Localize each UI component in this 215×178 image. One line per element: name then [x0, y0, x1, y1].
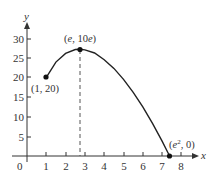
svg-text:7: 7: [159, 160, 165, 172]
svg-text:25: 25: [13, 52, 25, 64]
svg-text:8: 8: [178, 160, 184, 172]
x-axis-arrow-icon: [192, 153, 199, 159]
svg-text:6: 6: [140, 160, 146, 172]
svg-text:15: 15: [13, 91, 25, 103]
point-start: [43, 74, 48, 79]
svg-text:20: 20: [13, 71, 25, 83]
svg-text:3: 3: [82, 160, 88, 172]
x-axis-label: x: [200, 149, 206, 161]
label-max: (e, 10e): [64, 33, 97, 45]
svg-text:5: 5: [19, 131, 25, 143]
x-ticks: [46, 152, 181, 156]
point-max: [77, 47, 82, 52]
label-end: (e2, 0): [169, 138, 195, 151]
function-curve: [46, 49, 169, 156]
svg-text:30: 30: [13, 33, 25, 45]
svg-text:2: 2: [63, 160, 69, 172]
function-graph: x y 0 1 2 3 4 5 6 7 8 5 10 15 20 25 30: [0, 0, 215, 178]
svg-text:4: 4: [101, 160, 107, 172]
point-end: [167, 153, 172, 158]
origin-label: 0: [17, 160, 23, 172]
y-axis-arrow-icon: [24, 22, 30, 29]
svg-text:1: 1: [43, 160, 49, 172]
svg-text:5: 5: [121, 160, 127, 172]
x-tick-labels: 1 2 3 4 5 6 7 8: [43, 160, 184, 172]
y-axis-label: y: [23, 10, 29, 22]
svg-text:10: 10: [13, 111, 25, 123]
y-tick-labels: 5 10 15 20 25 30: [13, 33, 25, 143]
label-start: (1, 20): [31, 83, 59, 95]
